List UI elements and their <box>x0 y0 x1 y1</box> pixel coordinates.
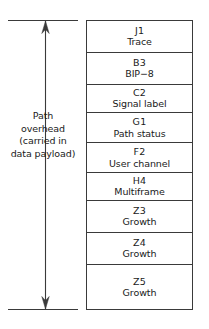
byte-row-b3: B3BIP−8 <box>87 53 192 85</box>
byte-description-label: Trace <box>127 36 152 48</box>
byte-code-label: H4 <box>133 175 147 187</box>
byte-code-label: Z5 <box>133 276 146 288</box>
byte-row-z3: Z3Growth <box>87 201 192 233</box>
byte-description-label: Signal label <box>113 98 167 110</box>
caption-line-4: data payload) <box>0 148 86 161</box>
byte-code-label: J1 <box>135 25 144 37</box>
byte-code-label: Z4 <box>133 237 146 249</box>
byte-description-label: Path status <box>114 128 166 140</box>
caption-line-3: (carried in <box>0 135 86 148</box>
byte-code-label: B3 <box>133 57 146 69</box>
path-overhead-diagram: Path overhead (carried in data payload) … <box>0 0 209 329</box>
path-overhead-byte-stack: J1TraceB3BIP−8C2Signal labelG1Path statu… <box>86 20 193 310</box>
path-overhead-label: Path overhead (carried in data payload) <box>0 110 86 160</box>
byte-code-label: C2 <box>133 87 146 99</box>
byte-row-g1: G1Path status <box>87 113 192 143</box>
byte-row-j1: J1Trace <box>87 21 192 53</box>
byte-description-label: Growth <box>123 287 157 299</box>
byte-row-z5: Z5Growth <box>87 265 192 309</box>
byte-row-c2: C2Signal label <box>87 85 192 114</box>
byte-description-label: User channel <box>109 158 170 170</box>
byte-row-z4: Z4Growth <box>87 233 192 266</box>
byte-code-label: Z3 <box>133 205 146 217</box>
byte-description-label: BIP−8 <box>125 68 154 80</box>
byte-description-label: Multiframe <box>114 186 164 198</box>
byte-description-label: Growth <box>123 248 157 260</box>
double-headed-vertical-arrow <box>0 0 90 329</box>
byte-row-h4: H4Multiframe <box>87 173 192 201</box>
byte-code-label: F2 <box>134 146 146 158</box>
caption-line-1: Path <box>0 110 86 123</box>
caption-line-2: overhead <box>0 123 86 136</box>
byte-description-label: Growth <box>123 216 157 228</box>
byte-row-f2: F2User channel <box>87 143 192 173</box>
byte-code-label: G1 <box>133 116 147 128</box>
